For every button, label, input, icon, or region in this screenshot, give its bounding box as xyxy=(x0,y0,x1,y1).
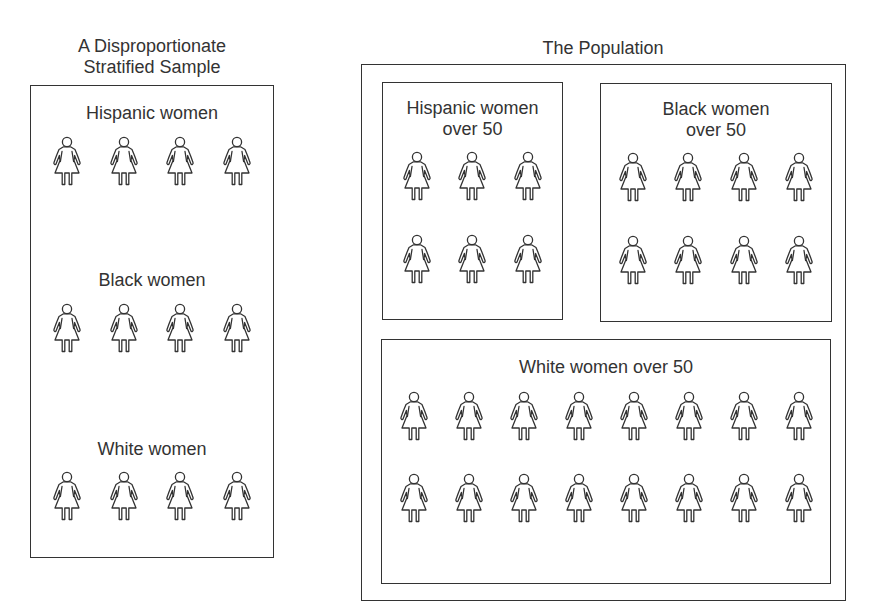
sample-title: A Disproportionate Stratified Sample xyxy=(30,36,274,78)
woman-figure-icon xyxy=(670,235,706,289)
population-group-white: White women over 50 xyxy=(381,339,831,584)
woman-figure-icon xyxy=(670,152,706,206)
sample-title-line2: Stratified Sample xyxy=(30,57,274,78)
population-row-hispanic-1 xyxy=(383,151,562,205)
sample-title-line1: A Disproportionate xyxy=(30,36,274,57)
woman-figure-icon xyxy=(506,391,542,445)
sample-row-black xyxy=(31,303,273,357)
woman-figure-icon xyxy=(616,473,652,527)
woman-figure-icon xyxy=(396,473,432,527)
population-label-hispanic: Hispanic women over 50 xyxy=(383,98,562,140)
woman-figure-icon xyxy=(219,303,255,357)
woman-figure-icon xyxy=(454,234,490,288)
sample-row-white xyxy=(31,471,273,525)
population-label-hispanic-line1: Hispanic women xyxy=(383,98,562,119)
sample-row-hispanic xyxy=(31,136,273,190)
woman-figure-icon xyxy=(399,234,435,288)
woman-figure-icon xyxy=(162,303,198,357)
woman-figure-icon xyxy=(219,136,255,190)
woman-figure-icon xyxy=(454,151,490,205)
woman-figure-icon xyxy=(49,471,85,525)
woman-figure-icon xyxy=(451,473,487,527)
woman-figure-icon xyxy=(106,303,142,357)
woman-figure-icon xyxy=(561,391,597,445)
woman-figure-icon xyxy=(106,136,142,190)
population-row-hispanic-2 xyxy=(383,234,562,288)
woman-figure-icon xyxy=(726,235,762,289)
woman-figure-icon xyxy=(49,303,85,357)
woman-figure-icon xyxy=(106,471,142,525)
population-row-black-1 xyxy=(601,152,831,206)
woman-figure-icon xyxy=(781,152,817,206)
sample-group-label-white: White women xyxy=(31,439,273,460)
woman-figure-icon xyxy=(399,151,435,205)
population-box: Hispanic women over 50 Black women over … xyxy=(361,64,846,601)
woman-figure-icon xyxy=(726,391,762,445)
population-row-black-2 xyxy=(601,235,831,289)
population-group-black: Black women over 50 xyxy=(600,83,832,322)
population-label-black-line2: over 50 xyxy=(601,120,831,141)
population-row-white-2 xyxy=(382,473,830,527)
woman-figure-icon xyxy=(615,152,651,206)
woman-figure-icon xyxy=(615,235,651,289)
woman-figure-icon xyxy=(671,473,707,527)
sample-group-label-hispanic: Hispanic women xyxy=(31,103,273,124)
woman-figure-icon xyxy=(781,391,817,445)
sample-group-label-black: Black women xyxy=(31,270,273,291)
population-row-white-1 xyxy=(382,391,830,445)
woman-figure-icon xyxy=(49,136,85,190)
woman-figure-icon xyxy=(616,391,652,445)
sample-box: Hispanic women Black women White women xyxy=(30,85,274,558)
woman-figure-icon xyxy=(451,391,487,445)
population-label-black: Black women over 50 xyxy=(601,99,831,141)
woman-figure-icon xyxy=(162,136,198,190)
woman-figure-icon xyxy=(671,391,707,445)
population-label-black-line1: Black women xyxy=(601,99,831,120)
woman-figure-icon xyxy=(162,471,198,525)
woman-figure-icon xyxy=(781,473,817,527)
woman-figure-icon xyxy=(506,473,542,527)
woman-figure-icon xyxy=(781,235,817,289)
population-label-white: White women over 50 xyxy=(382,357,830,378)
woman-figure-icon xyxy=(726,152,762,206)
woman-figure-icon xyxy=(726,473,762,527)
population-label-hispanic-line2: over 50 xyxy=(383,119,562,140)
woman-figure-icon xyxy=(396,391,432,445)
population-group-hispanic: Hispanic women over 50 xyxy=(382,82,563,320)
woman-figure-icon xyxy=(561,473,597,527)
woman-figure-icon xyxy=(510,151,546,205)
woman-figure-icon xyxy=(510,234,546,288)
woman-figure-icon xyxy=(219,471,255,525)
population-title: The Population xyxy=(361,38,845,59)
